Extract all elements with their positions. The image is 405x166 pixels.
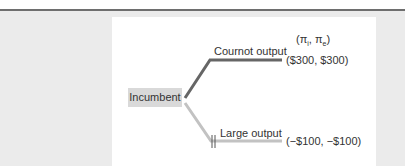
branch-label-large: Large output	[220, 127, 282, 139]
branch-label-cournot: Cournot output	[214, 45, 287, 57]
payoff-cournot: ($300, $300)	[286, 54, 348, 66]
branch-cournot-line	[185, 60, 282, 98]
payoff-header: (πi, πe)	[296, 33, 330, 47]
incumbent-node: Incumbent	[128, 88, 182, 107]
payoff-large: (−$100, −$100)	[286, 135, 361, 147]
